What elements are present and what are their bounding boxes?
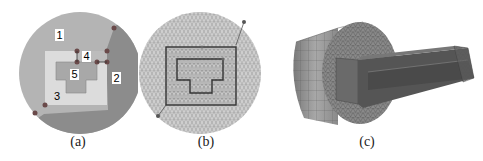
caption-b: (b) <box>186 134 226 150</box>
panel-a: 1 2 3 4 5 (a) <box>18 0 138 161</box>
caption-a: (a) <box>58 134 98 150</box>
panel-c: (c) <box>268 0 483 161</box>
region-label-4: 4 <box>83 50 89 62</box>
region-label-5: 5 <box>71 68 77 80</box>
region-4 <box>77 51 107 62</box>
region-label-3: 3 <box>54 90 60 102</box>
panel-b: (b) <box>138 0 268 161</box>
region-label-2: 2 <box>113 72 119 84</box>
3d-mesh-model <box>268 0 483 140</box>
region-label-1: 1 <box>56 29 62 41</box>
region-partition-diagram: 1 2 3 4 5 <box>18 0 138 140</box>
triangulated-mesh <box>138 0 268 140</box>
caption-c: (c) <box>347 134 387 150</box>
